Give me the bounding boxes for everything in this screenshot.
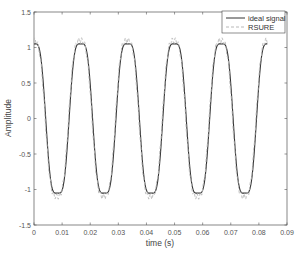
legend-label-rsure: RSURE <box>248 23 274 32</box>
x-tick-label: 0.04 <box>140 229 154 236</box>
y-tick-label: 0.5 <box>21 80 31 87</box>
x-tick-label: 0.06 <box>196 229 210 236</box>
x-tick-label: 0.05 <box>168 229 182 236</box>
x-tick-label: 0.07 <box>224 229 238 236</box>
x-tick-label: 0.08 <box>252 229 266 236</box>
y-axis-label: Amplitude <box>3 99 13 137</box>
x-axis-label: time (s) <box>146 238 175 248</box>
y-tick-label: 0 <box>27 115 31 122</box>
x-tick-label: 0.03 <box>112 229 126 236</box>
legend-label-ideal-signal: ideal signal <box>248 14 286 23</box>
x-tick-label: 0.01 <box>55 229 69 236</box>
legend: ideal signal RSURE <box>222 11 286 33</box>
y-tick-label: 1 <box>27 44 31 51</box>
x-tick-label: 0 <box>32 229 36 236</box>
x-tick-label: 0.02 <box>83 229 97 236</box>
x-tick-label: 0.09 <box>280 229 294 236</box>
line-chart: 00.010.020.030.040.050.060.070.080.09-1.… <box>0 0 302 256</box>
y-tick-label: -1 <box>25 186 31 193</box>
y-tick-label: -1.5 <box>19 222 31 229</box>
y-tick-label: -0.5 <box>19 151 31 158</box>
y-tick-label: 1.5 <box>21 9 31 16</box>
